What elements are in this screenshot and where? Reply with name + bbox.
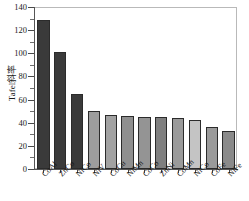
y-tick-label-80: 80	[4, 71, 27, 81]
bar-nico-2	[71, 94, 83, 169]
bar-niv-3	[88, 111, 100, 169]
y-tick-label-40: 40	[4, 118, 27, 128]
bar-chart: Tafel斜率 020406080100120140 CoAlZnCoNiCoN…	[0, 0, 249, 201]
y-tick-label-100: 100	[4, 48, 27, 58]
x-axis-tick-labels: CoAlZnCoNiCoNiVCoCuNiMnCoCoZnNiCoMnNiCoC…	[0, 170, 249, 201]
bar-comn-8	[172, 118, 184, 169]
y-tick-label-60: 60	[4, 95, 27, 105]
y-tick-label-120: 120	[4, 25, 27, 35]
y-tick-label-20: 20	[4, 141, 27, 151]
bar-znco-1	[54, 52, 66, 169]
bar-coal-0	[37, 20, 49, 169]
bar-cocu-4	[105, 115, 117, 169]
y-tick-label-140: 140	[4, 2, 27, 12]
bars-container	[35, 7, 237, 169]
